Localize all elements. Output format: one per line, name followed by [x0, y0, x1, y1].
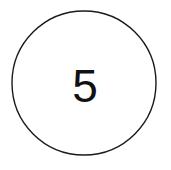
image-canvas: 5 — [0, 0, 171, 170]
circle-number-label: 5 — [0, 63, 171, 109]
